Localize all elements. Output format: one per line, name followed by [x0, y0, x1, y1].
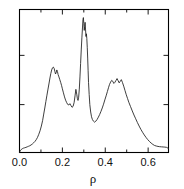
plot-box	[20, 10, 169, 153]
plot-frame	[20, 10, 169, 153]
x-tick-label: 0.2	[55, 156, 70, 168]
figure-container: 0.00.20.40.6 ρ	[0, 0, 184, 189]
x-axis-title: ρ	[90, 171, 97, 186]
axis-ticks	[20, 10, 169, 153]
density-curve	[20, 18, 169, 153]
density-plot: 0.00.20.40.6 ρ	[0, 0, 184, 189]
x-tick-label: 0.4	[98, 156, 113, 168]
x-tick-labels: 0.00.20.40.6	[12, 156, 156, 168]
x-tick-label: 0.6	[140, 156, 155, 168]
x-tick-label: 0.0	[12, 156, 27, 168]
